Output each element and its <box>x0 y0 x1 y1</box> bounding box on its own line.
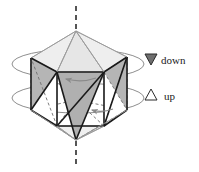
legend-label-up: up <box>164 90 176 102</box>
legend-item-up: up <box>145 89 176 102</box>
icosahedron-figure: down up <box>0 0 199 172</box>
legend-item-down: down <box>145 54 186 66</box>
triangle-up-outline-icon <box>145 89 157 100</box>
triangle-down-filled-icon <box>145 54 157 65</box>
legend: down up <box>145 54 186 102</box>
legend-label-down: down <box>161 54 186 66</box>
